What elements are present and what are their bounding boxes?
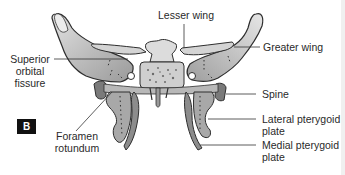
label-sof-line3: fissure <box>6 77 54 89</box>
right-lateral-pterygoid-plate <box>193 92 214 138</box>
label-superior-orbital-fissure: Superior orbital fissure <box>6 53 54 89</box>
label-mpp-line2: plate <box>262 151 339 163</box>
label-spine: Spine <box>262 88 289 100</box>
leader-foramen-rotundum <box>76 92 112 131</box>
label-lateral-pterygoid-plate: Lateral pterygoid plate <box>262 113 340 137</box>
sphenoid-body <box>140 62 184 88</box>
right-edge-shade <box>341 0 345 175</box>
label-lpp-line2: plate <box>262 125 340 137</box>
left-foramen <box>128 73 135 80</box>
label-mpp-line1: Medial pterygoid <box>262 139 339 151</box>
label-sof-line2: orbital <box>6 65 54 77</box>
label-foramen-rotundum: Foramen rotundum <box>52 130 102 154</box>
label-lpp-line1: Lateral pterygoid <box>262 113 340 125</box>
label-fr-line2: rotundum <box>52 142 102 154</box>
rostrum <box>156 88 160 107</box>
right-foramen <box>189 73 196 80</box>
label-greater-wing: Greater wing <box>263 41 323 53</box>
dorsum-sellae <box>145 39 176 62</box>
label-fr-line1: Foramen <box>52 130 102 142</box>
label-medial-pterygoid-plate: Medial pterygoid plate <box>262 139 339 163</box>
label-sof-line1: Superior <box>6 53 54 65</box>
left-lateral-pterygoid-plate <box>106 92 131 142</box>
figure-badge: B <box>17 119 36 134</box>
label-lesser-wing: Lesser wing <box>158 9 214 21</box>
